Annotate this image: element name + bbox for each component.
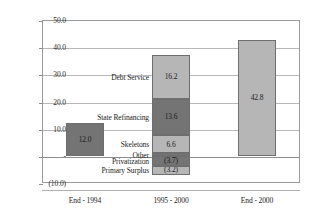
bar-value-label: 16.2 [165,73,178,81]
bar-value-label: 12.0 [79,136,92,144]
bar-value-label: 6.6 [166,141,175,149]
x-axis-tick-label: End - 1994 [42,196,128,205]
segment-callout-label: State Refinancing [97,112,149,121]
bar-segment: 6.6 [152,135,190,153]
chart-container: 50.040.030.020.010.0-(10.0)12.0End - 199… [0,0,311,222]
y-axis-tick-label: 20.0 [18,97,66,106]
bar-segment: 42.8 [238,40,276,156]
segment-callout-label: Privatization [112,156,149,165]
axis-separator [42,190,300,191]
bar-value-label: (3.7) [164,157,178,165]
segment-callout-label: Debt Service [111,72,149,81]
segment-callout-label: Primary Surplus [102,166,149,175]
y-axis-tick-label: 10.0 [18,124,66,133]
y-axis-tick-label: (10.0) [18,179,66,188]
bar-segment: 13.6 [152,99,190,136]
y-axis-tick-label: 40.0 [18,43,66,52]
segment-callout-label: Skeletons [121,140,149,149]
bar-segment: (3.7) [152,156,190,166]
y-axis-tick-label: 50.0 [18,16,66,25]
x-axis-tick-label: 1995 - 2000 [128,196,214,205]
bar-segment: 12.0 [66,123,104,156]
bar-value-label: 42.8 [251,94,264,102]
x-axis-tick-label: End - 2000 [214,196,300,205]
y-axis-tick-label: 30.0 [18,70,66,79]
bar-segment: 16.2 [152,55,190,99]
bar-segment: (3.2) [152,166,190,175]
bar-value-label: 13.6 [165,113,178,121]
y-axis-tick-label: - [18,151,66,160]
bar-value-label: (3.2) [164,166,178,174]
